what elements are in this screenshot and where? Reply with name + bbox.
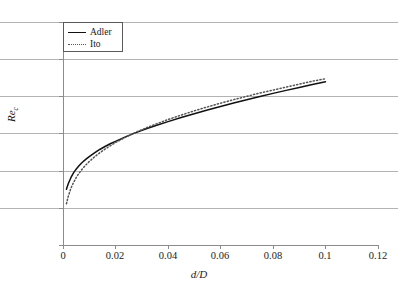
legend-label-adler: Adler	[90, 26, 112, 38]
y-axis-title: Rec	[5, 107, 20, 122]
legend-swatch-solid-icon	[68, 28, 86, 37]
legend: Adler Ito	[63, 22, 123, 52]
legend-entry-adler: Adler	[68, 26, 122, 38]
x-axis-title: d/D	[0, 268, 398, 280]
legend-label-ito: Ito	[90, 38, 101, 50]
legend-entry-ito: Ito	[68, 38, 122, 50]
data-curves	[0, 0, 398, 292]
y-axis-title-base: Re	[5, 110, 17, 122]
legend-swatch-dotted-icon	[68, 40, 86, 49]
series-line-adler	[66, 82, 325, 190]
chart-figure: 12,000 10,000 8,000 6,000 4,000 2,000 0 …	[0, 0, 398, 292]
series-line-ito	[66, 79, 325, 204]
y-axis-title-sub: c	[11, 107, 20, 110]
